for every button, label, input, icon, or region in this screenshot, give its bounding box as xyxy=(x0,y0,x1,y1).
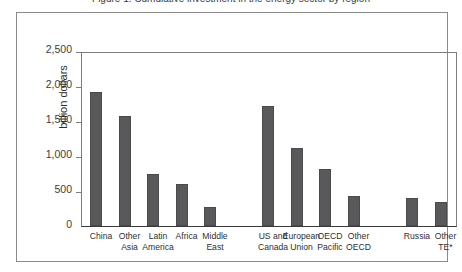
figure-border: billion dollars 05001,0001,5002,0002,500… xyxy=(16,12,448,262)
bar xyxy=(319,169,331,226)
bar xyxy=(406,198,418,226)
bar xyxy=(176,184,188,226)
y-tick-label: 1,000 xyxy=(46,149,72,160)
bar xyxy=(435,202,447,226)
x-axis-label-line: Other xyxy=(332,231,386,242)
x-axis-labels: ChinaOtherAsiaLatinAmericaAfricaMiddleEa… xyxy=(81,228,457,268)
bar xyxy=(262,106,274,226)
x-axis-label-line: America xyxy=(131,242,185,253)
figure-caption: Figure 1. Cumulative investment in the e… xyxy=(0,0,462,5)
y-tick-label: 1,500 xyxy=(46,114,72,125)
x-axis-label-line: East xyxy=(188,242,242,253)
bar xyxy=(348,196,360,226)
bar xyxy=(119,116,131,226)
bar xyxy=(204,207,216,226)
chart-figure: Figure 1. Cumulative investment in the e… xyxy=(0,0,462,272)
x-axis-label-line: OECD xyxy=(332,242,386,253)
x-axis-label: OtherOECD xyxy=(332,231,386,252)
y-axis-title: billion dollars xyxy=(57,37,69,157)
bar xyxy=(90,92,102,226)
y-tick-label: 0 xyxy=(66,219,72,230)
x-axis-label-line: TE* xyxy=(419,242,462,253)
x-axis-label-line: Other xyxy=(419,231,462,242)
x-axis-label-line: Middle xyxy=(188,231,242,242)
bar xyxy=(147,174,159,227)
x-axis-label: MiddleEast xyxy=(188,231,242,252)
y-tick-label: 2,500 xyxy=(46,44,72,55)
y-tick-label: 500 xyxy=(54,184,72,195)
bar xyxy=(291,148,303,226)
plot-area xyxy=(81,52,457,227)
x-axis-label: OtherTE* xyxy=(419,231,462,252)
y-tick-label: 2,000 xyxy=(46,79,72,90)
